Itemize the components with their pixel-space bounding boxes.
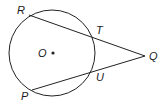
secant-pq — [32, 56, 145, 90]
label-r: R — [17, 4, 25, 16]
label-u: U — [96, 71, 104, 83]
label-q: Q — [149, 50, 158, 62]
label-t: T — [96, 24, 104, 36]
label-p: P — [21, 90, 29, 102]
label-o: O — [38, 47, 47, 59]
diagram-canvas: R T Q U P O — [0, 0, 163, 104]
center-dot — [51, 51, 54, 54]
